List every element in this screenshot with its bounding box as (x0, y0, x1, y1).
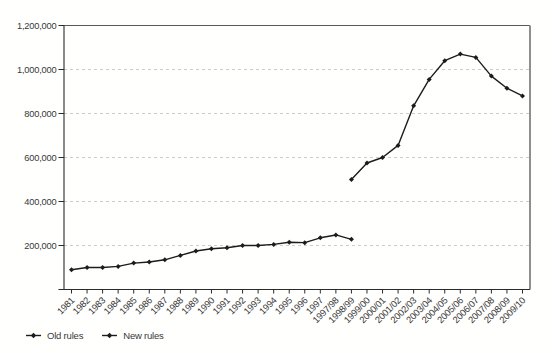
data-point-marker (271, 242, 276, 247)
y-tick-label: 400,000 (24, 197, 56, 207)
legend-item-new-rules: New rules (102, 330, 163, 341)
line-chart: 200,000400,000600,000800,0001,000,0001,2… (0, 0, 552, 353)
series-line-old-rules (72, 235, 352, 270)
data-point-marker (85, 265, 90, 270)
y-tick-label: 600,000 (24, 153, 56, 163)
y-tick-label: 200,000 (24, 241, 56, 251)
data-point-marker (162, 257, 167, 262)
series-line-new-rules (351, 54, 522, 179)
data-point-marker (131, 261, 136, 266)
data-point-marker (100, 265, 105, 270)
data-point-marker (209, 246, 214, 251)
legend-label-new-rules: New rules (123, 330, 163, 341)
data-point-marker (193, 249, 198, 254)
data-point-marker (147, 260, 152, 265)
data-point-marker (116, 264, 121, 269)
y-tick-label: 800,000 (24, 109, 56, 119)
new-rules-line-symbol (102, 331, 118, 340)
y-tick-label: 1,000,000 (17, 65, 57, 75)
y-tick-label: 1,200,000 (17, 21, 57, 31)
data-point-marker (520, 93, 525, 98)
data-point-marker (287, 240, 292, 245)
data-point-marker (349, 237, 354, 242)
chart-legend: Old rules New rules (26, 330, 164, 341)
data-point-marker (318, 235, 323, 240)
data-point-marker (333, 232, 338, 237)
chart-figure: 200,000400,000600,000800,0001,000,0001,2… (0, 0, 552, 353)
data-point-marker (178, 253, 183, 258)
old-rules-line-symbol (26, 331, 42, 340)
data-point-marker (256, 243, 261, 248)
data-point-marker (240, 243, 245, 248)
legend-label-old-rules: Old rules (47, 330, 83, 341)
legend-item-old-rules: Old rules (26, 330, 83, 341)
data-point-marker (302, 240, 307, 245)
data-point-marker (458, 52, 463, 57)
data-point-marker (69, 267, 74, 272)
